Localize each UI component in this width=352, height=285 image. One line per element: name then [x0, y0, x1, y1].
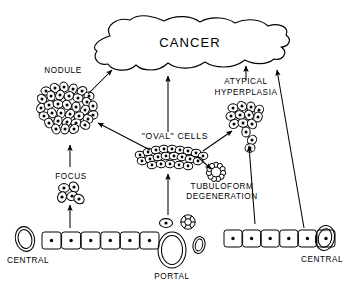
cell-nucleus — [62, 186, 65, 189]
cell-nucleus — [66, 104, 69, 107]
hepatocyte-nucleus — [148, 239, 151, 242]
oval-cells-label: "OVAL" CELLS — [142, 131, 208, 141]
tubuloform-label-line1: TUBULOFORM — [191, 182, 254, 191]
cell-nucleus — [64, 128, 67, 131]
cell-nucleus — [139, 154, 142, 157]
cell-nucleus — [155, 149, 158, 152]
hepatocyte-nucleus — [287, 237, 290, 240]
cell-nucleus — [195, 152, 198, 155]
cell-nucleus — [233, 123, 236, 126]
central-vein-left-outer — [13, 225, 37, 254]
cell-nucleus — [72, 185, 75, 188]
hepatocyte-row-left — [42, 232, 159, 249]
cell-nucleus — [86, 101, 89, 104]
nodule-cell-cluster — [35, 81, 99, 135]
cell-nucleus — [81, 90, 84, 93]
focus-cell-cluster — [56, 180, 86, 206]
atypical-label-line2: HYPERPLASIA — [215, 88, 278, 97]
oval-cells-sheet — [135, 145, 209, 171]
tubuloform-cell-ring — [206, 162, 225, 181]
cell-nucleus — [75, 106, 78, 109]
cell-nucleus — [41, 98, 44, 101]
cell-nucleus — [257, 116, 260, 119]
cell-nucleus — [92, 114, 95, 117]
hepatocyte-nucleus — [109, 239, 112, 242]
hepatocyte-nucleus — [231, 237, 234, 240]
cell-nucleus — [59, 94, 62, 97]
cell-nucleus — [43, 115, 46, 118]
cell-nucleus — [258, 109, 261, 112]
arrow-nodule-to-cancer — [88, 70, 112, 94]
arrow-hepatocytes-right-to-cancer — [277, 70, 304, 228]
cell-nucleus — [66, 121, 69, 124]
cell-nucleus — [54, 87, 57, 90]
bile-duct-lumen — [185, 219, 192, 226]
hepatocyte-nucleus — [128, 239, 131, 242]
cell-nucleus — [179, 149, 182, 152]
cell-nucleus — [242, 122, 245, 125]
hepatocyte-nucleus — [89, 239, 92, 242]
cell-nucleus — [248, 114, 251, 117]
bile-duct — [181, 215, 195, 229]
cell-nucleus — [171, 148, 174, 151]
cell-nucleus — [187, 150, 190, 153]
cell-nucleus — [60, 195, 63, 198]
cell-nucleus — [202, 155, 205, 158]
cell-nucleus — [239, 114, 242, 117]
nodule-label: NODULE — [44, 66, 81, 75]
cell-nucleus — [60, 112, 63, 115]
cell-nucleus — [251, 123, 254, 126]
cell-nucleus — [77, 197, 80, 200]
central-right-label: CENTRAL — [301, 255, 343, 264]
cell-nucleus — [163, 148, 166, 151]
hepatocyte-nucleus — [269, 237, 272, 240]
cell-nucleus — [92, 105, 95, 108]
cell-nucleus — [57, 103, 60, 106]
cell-nucleus — [250, 106, 253, 109]
cell-nucleus — [84, 109, 87, 112]
hepatocyte-nucleus — [250, 237, 253, 240]
hepatic-artery-lumen — [164, 221, 167, 224]
portal-vein-outer — [158, 232, 186, 268]
cell-nucleus — [51, 112, 54, 115]
cell-nucleus — [147, 151, 150, 154]
cell-nucleus — [232, 107, 235, 110]
hepatocyte-nucleus — [69, 239, 72, 242]
cell-nucleus — [187, 165, 190, 168]
cell-nucleus — [68, 95, 71, 98]
cell-nucleus — [63, 86, 66, 89]
portal-triad-node: PORTAL — [154, 215, 206, 281]
portal-venule-outer — [191, 235, 206, 254]
cell-nucleus — [57, 120, 60, 123]
cell-nucleus — [165, 155, 168, 158]
cell-nucleus — [189, 158, 192, 161]
hepatocyte-nucleus — [324, 237, 327, 240]
portal-label: PORTAL — [154, 272, 189, 281]
cell-nucleus — [88, 95, 91, 98]
hepatocyte-nucleus — [50, 239, 53, 242]
cell-nucleus — [40, 107, 43, 110]
tubuloform-label-line2: DEGENERATION — [186, 192, 258, 201]
cell-nucleus — [230, 115, 233, 118]
cell-nucleus — [151, 164, 154, 167]
atypical-cell-cluster — [225, 100, 265, 153]
central-left-label: CENTRAL — [7, 256, 49, 265]
cell-nucleus — [157, 156, 160, 159]
cell-nucleus — [69, 113, 72, 116]
cell-nucleus — [245, 131, 248, 134]
cell-nucleus — [73, 128, 76, 131]
cell-nucleus — [45, 90, 48, 93]
cell-nucleus — [48, 104, 51, 107]
cell-nucleus — [50, 95, 53, 98]
cell-nucleus — [251, 139, 254, 142]
cell-nucleus — [48, 122, 51, 125]
cell-nucleus — [149, 158, 152, 161]
cell-nucleus — [178, 164, 181, 167]
portal-venule-inner — [194, 238, 204, 251]
focus-label: FOCUS — [55, 172, 86, 181]
cancer-node: CANCER — [95, 16, 290, 70]
cell-nucleus — [84, 124, 87, 127]
cell-nucleus — [55, 128, 58, 131]
cell-nucleus — [241, 105, 244, 108]
diagram-canvas: CANCER NODULE FOCUS "OVAL" CELLS TUBULOF… — [0, 0, 352, 285]
